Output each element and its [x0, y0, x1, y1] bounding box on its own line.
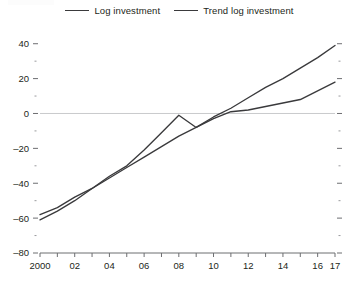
y-tick-label: 0 — [24, 108, 29, 119]
x-tick-label: 06 — [139, 260, 150, 271]
x-tick-label: 10 — [208, 260, 219, 271]
y-tick-label: 40 — [18, 38, 29, 49]
chart-plot-area: –80–60–40–2002040 2000020406081012141617 — [0, 0, 359, 294]
investment-trend-chart: Log investment Trend log investment –80–… — [0, 0, 359, 294]
y-tick-label: –20 — [13, 143, 29, 154]
x-axis-ticks — [40, 253, 335, 257]
right-axis-ticks — [337, 44, 342, 253]
x-tick-label: 12 — [243, 260, 254, 271]
y-tick-label: 20 — [18, 73, 29, 84]
x-tick-label: 08 — [174, 260, 185, 271]
series-line-log-investment — [40, 82, 335, 220]
x-tick-label: 17 — [330, 260, 341, 271]
x-tick-label: 04 — [104, 260, 115, 271]
x-tick-label: 02 — [69, 260, 80, 271]
x-axis-tick-labels: 2000020406081012141617 — [29, 260, 340, 271]
x-tick-label: 2000 — [29, 260, 50, 271]
series-line-trend-log-investment — [40, 45, 335, 214]
y-tick-label: –40 — [13, 178, 29, 189]
y-axis-ticks — [33, 44, 38, 253]
x-tick-label: 16 — [312, 260, 323, 271]
y-tick-label: –60 — [13, 213, 29, 224]
x-tick-label: 14 — [278, 260, 289, 271]
y-axis-tick-labels: –80–60–40–2002040 — [13, 38, 29, 258]
y-tick-label: –80 — [13, 247, 29, 258]
